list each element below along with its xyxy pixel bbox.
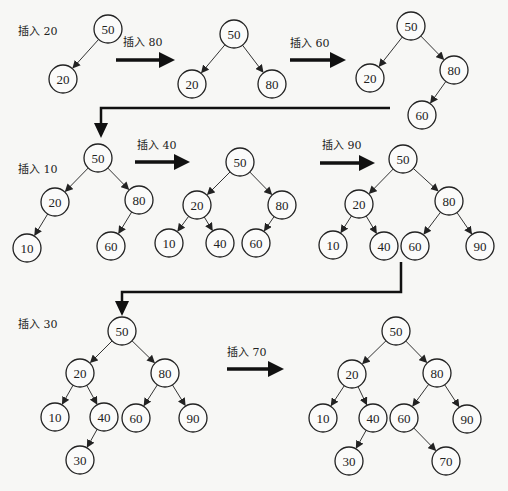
tree-edge bbox=[73, 39, 99, 67]
tree-node: 30 bbox=[66, 446, 94, 474]
node-value: 50 bbox=[92, 151, 105, 166]
step-label: 插入 30 bbox=[18, 317, 58, 331]
step-2: 插入 80502080 bbox=[116, 20, 286, 98]
tree-node: 20 bbox=[66, 359, 94, 387]
right-arrow-icon bbox=[227, 361, 284, 377]
node-value: 50 bbox=[116, 324, 129, 339]
node-value: 60 bbox=[409, 239, 422, 254]
tree-node: 20 bbox=[49, 65, 77, 93]
node-value: 40 bbox=[98, 410, 111, 425]
node-value: 90 bbox=[474, 239, 487, 254]
step-3: 插入 6050208060 bbox=[290, 12, 468, 129]
node-value: 50 bbox=[234, 155, 247, 170]
right-arrow-icon bbox=[116, 52, 175, 68]
tree-node: 80 bbox=[423, 359, 451, 387]
tree-node: 70 bbox=[432, 447, 460, 475]
node-value: 80 bbox=[266, 77, 279, 92]
node-value: 10 bbox=[49, 410, 62, 425]
step-label: 插入 70 bbox=[227, 345, 267, 359]
step-label: 插入 20 bbox=[18, 24, 58, 38]
tree-node: 50 bbox=[382, 317, 410, 345]
node-value: 90 bbox=[461, 412, 474, 427]
tree-node: 80 bbox=[268, 191, 296, 219]
tree-edge bbox=[341, 216, 351, 233]
node-value: 20 bbox=[191, 198, 204, 213]
tree-node: 50 bbox=[84, 144, 112, 172]
tree-edge bbox=[204, 217, 212, 230]
node-value: 60 bbox=[416, 108, 429, 123]
tree-node: 60 bbox=[122, 404, 150, 432]
tree-node: 80 bbox=[258, 70, 286, 98]
node-value: 60 bbox=[398, 411, 411, 426]
tree-node: 60 bbox=[390, 404, 418, 432]
tree-node: 60 bbox=[408, 101, 436, 129]
tree-node: 80 bbox=[440, 56, 468, 84]
step-7: 插入 305020801040609030 bbox=[18, 317, 207, 474]
tree-node: 80 bbox=[435, 187, 463, 215]
node-value: 80 bbox=[448, 63, 461, 78]
tree-node: 60 bbox=[242, 229, 270, 257]
tree-edge bbox=[87, 429, 97, 447]
node-value: 10 bbox=[21, 241, 34, 256]
node-value: 20 bbox=[74, 366, 87, 381]
node-value: 60 bbox=[250, 236, 263, 251]
node-value: 90 bbox=[187, 411, 200, 426]
node-value: 10 bbox=[163, 236, 176, 251]
tree-node: 90 bbox=[453, 405, 481, 433]
step-8: 插入 70502080104060903070 bbox=[227, 317, 481, 475]
tree-node: 40 bbox=[90, 403, 118, 431]
node-value: 10 bbox=[317, 411, 330, 426]
step-5: 插入 40502080104060 bbox=[135, 138, 296, 257]
tree-node: 40 bbox=[359, 404, 387, 432]
tree-edge bbox=[202, 45, 225, 73]
connector-arrow bbox=[94, 108, 390, 138]
tree-node: 80 bbox=[151, 359, 179, 387]
node-value: 20 bbox=[353, 197, 366, 212]
node-value: 30 bbox=[343, 454, 356, 469]
tree-edge bbox=[331, 386, 344, 406]
tree-edge bbox=[264, 217, 274, 231]
tree-edge bbox=[178, 216, 189, 231]
node-value: 80 bbox=[443, 194, 456, 209]
step-label: 插入 40 bbox=[137, 138, 177, 152]
tree-node: 50 bbox=[397, 12, 425, 40]
tree-node: 50 bbox=[389, 145, 417, 173]
tree-edge bbox=[119, 212, 132, 233]
tree-edge bbox=[132, 341, 154, 363]
node-value: 20 bbox=[346, 367, 359, 382]
tree-edge bbox=[250, 172, 272, 194]
tree-edge bbox=[369, 169, 393, 193]
step-label: 插入 10 bbox=[18, 162, 58, 176]
tree-node: 50 bbox=[226, 148, 254, 176]
node-value: 20 bbox=[49, 195, 62, 210]
tree-node: 60 bbox=[401, 232, 429, 260]
tree-edge bbox=[379, 37, 402, 66]
node-value: 20 bbox=[364, 71, 377, 86]
tree-edge bbox=[358, 387, 367, 405]
step-label: 插入 80 bbox=[123, 35, 163, 49]
tree-edge bbox=[445, 385, 459, 407]
tree-edge bbox=[413, 168, 438, 190]
tree-node: 10 bbox=[13, 234, 41, 262]
tree-edge bbox=[457, 213, 472, 234]
tree-edge bbox=[172, 385, 185, 405]
tree-edge bbox=[242, 45, 262, 72]
node-value: 60 bbox=[105, 239, 118, 254]
tree-edge bbox=[363, 341, 386, 364]
tree-edge bbox=[421, 36, 444, 59]
node-value: 50 bbox=[228, 27, 241, 42]
tree-node: 50 bbox=[108, 317, 136, 345]
right-arrow-icon bbox=[320, 155, 375, 171]
tree-edge bbox=[356, 430, 366, 448]
node-value: 30 bbox=[74, 453, 87, 468]
step-4: 插入 105020801060 bbox=[13, 144, 153, 262]
tree-node: 90 bbox=[179, 404, 207, 432]
step-1: 插入 205020 bbox=[18, 15, 122, 93]
connector-arrow bbox=[115, 262, 401, 316]
tree-edge bbox=[62, 385, 73, 404]
node-value: 60 bbox=[130, 411, 143, 426]
node-value: 40 bbox=[378, 239, 391, 254]
right-arrow-icon bbox=[135, 154, 190, 170]
tree-edge bbox=[208, 172, 230, 194]
node-value: 40 bbox=[214, 236, 227, 251]
